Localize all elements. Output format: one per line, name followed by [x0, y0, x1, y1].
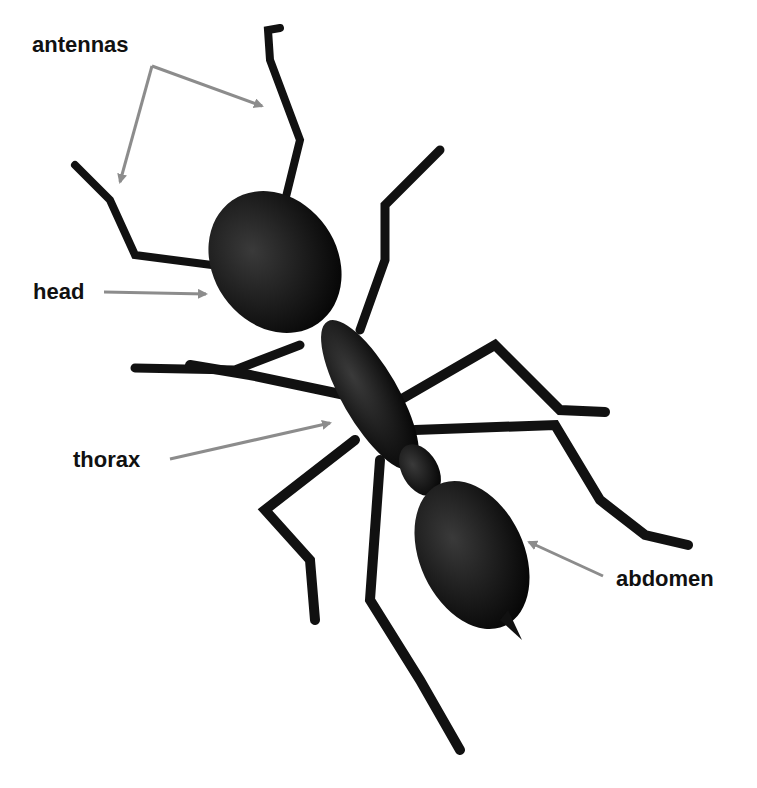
thorax-arrow [170, 423, 330, 459]
ant-body [181, 165, 552, 648]
label-head: head [33, 281, 84, 303]
label-arrows [104, 66, 603, 576]
head-arrow [104, 292, 206, 294]
abdomen-arrow [529, 542, 603, 576]
label-thorax: thorax [73, 449, 140, 471]
ant-illustration [0, 0, 757, 788]
label-abdomen: abdomen [616, 568, 714, 590]
antennas-arrow-left [120, 66, 152, 182]
antennas-arrow-right [152, 66, 262, 106]
ant-anatomy-diagram: antennas head thorax abdomen [0, 0, 757, 788]
label-antennas: antennas [32, 34, 129, 56]
